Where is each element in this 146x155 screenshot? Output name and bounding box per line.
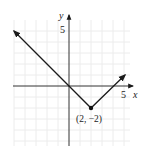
x-axis-label: x: [132, 89, 138, 100]
y-axis-label: y: [58, 10, 64, 21]
y-tick-label: 5: [60, 24, 65, 35]
graph-plot: y 5 5 x (2, −2): [0, 0, 146, 155]
vertex-point: [89, 106, 93, 110]
vertex-label: (2, −2): [76, 114, 102, 125]
x-tick-label: 5: [121, 89, 126, 100]
grid: [14, 20, 130, 146]
